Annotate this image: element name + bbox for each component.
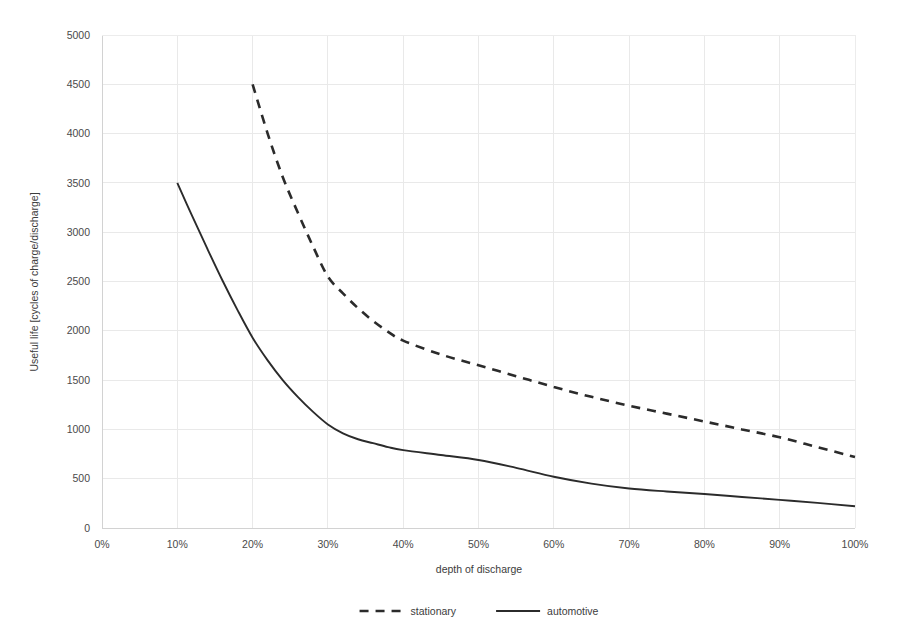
line-chart-figure: 0500100015002000250030003500400045005000… [0,0,899,631]
y-tick-label: 0 [84,522,90,534]
grid-lines [102,35,855,528]
y-tick-label: 2500 [67,275,91,287]
legend-label: stationary [411,605,457,617]
y-tick-label: 3000 [67,226,91,238]
x-tick-label: 20% [242,538,263,550]
x-tick-label: 50% [468,538,489,550]
x-tick-label: 0% [94,538,109,550]
y-axis-title: Useful life [cycles of charge/discharge] [28,192,40,371]
x-tick-label: 30% [317,538,338,550]
chart-container: 0500100015002000250030003500400045005000… [0,0,899,631]
legend-item-stationary[interactable]: stationary [360,605,457,617]
x-tick-label: 80% [694,538,715,550]
y-tick-label: 500 [72,472,90,484]
series-line-automotive [177,183,855,506]
y-tick-label: 4500 [67,78,91,90]
data-series-group [177,84,855,506]
y-tick-label: 2000 [67,324,91,336]
legend-label: automotive [547,605,599,617]
x-tick-label: 60% [543,538,564,550]
y-axis-tick-labels: 0500100015002000250030003500400045005000 [67,29,91,534]
chart-legend: stationaryautomotive [360,605,599,617]
x-tick-label: 70% [619,538,640,550]
y-tick-label: 1500 [67,374,91,386]
x-tick-label: 90% [769,538,790,550]
x-axis-tick-labels: 0%10%20%30%40%50%60%70%80%90%100% [94,538,868,550]
y-tick-label: 5000 [67,29,91,41]
y-tick-label: 1000 [67,423,91,435]
y-tick-label: 4000 [67,127,91,139]
x-tick-label: 10% [167,538,188,550]
y-tick-label: 3500 [67,177,91,189]
x-axis-title: depth of discharge [436,563,523,575]
x-tick-label: 40% [393,538,414,550]
x-tick-label: 100% [842,538,869,550]
legend-item-automotive[interactable]: automotive [496,605,599,617]
